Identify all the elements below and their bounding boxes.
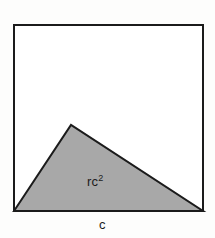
figure-canvas (0, 0, 215, 238)
square-base-label: c (99, 218, 106, 231)
triangle-area-label: rc2 (87, 175, 103, 188)
area-label-exponent: 2 (98, 173, 103, 183)
geometry-figure: rc2 c (0, 0, 215, 238)
area-label-base: rc (87, 174, 98, 189)
